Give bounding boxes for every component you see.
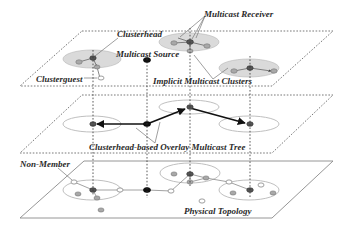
clusterguest-label: Clusterguest [36, 74, 83, 84]
layered-multicast-diagram: Clusterhead Multicast Receiver Multicast… [0, 0, 348, 232]
member-node [230, 191, 236, 195]
layer-implicit-clusters: Clusterhead Multicast Receiver Multicast… [20, 9, 333, 86]
clusterguest-node [98, 76, 104, 80]
bottom-plane [20, 161, 333, 218]
clusterguest-node [76, 60, 82, 64]
clusterguest-node [94, 65, 100, 69]
receiver-node [204, 44, 210, 48]
layer-physical-topology: Non-Member Physical Topology [19, 159, 333, 218]
non-member-node [226, 180, 232, 184]
member-node [94, 196, 100, 200]
clusterguest-node [231, 69, 237, 73]
member-node [171, 172, 177, 176]
member-node [203, 176, 209, 180]
layer-overlay-tree: Clusterhead-based Overlay Multicast Tree [20, 95, 333, 153]
clusterhead-label: Clusterhead [117, 29, 163, 39]
clusterguest-node [271, 69, 277, 73]
non-member-node [71, 180, 77, 184]
multicast-receiver-label: Multicast Receiver [203, 9, 274, 19]
physical-topology-label: Physical Topology [184, 206, 252, 216]
member-node [270, 191, 276, 195]
non-member-label: Non-Member [19, 159, 70, 169]
tree-pointer-1 [136, 128, 155, 143]
member-node [98, 208, 104, 212]
non-member-node [199, 199, 205, 203]
overlay-tree-label: Clusterhead-based Overlay Multicast Tree [89, 142, 245, 152]
receiver-node [171, 41, 177, 45]
non-member-node [117, 188, 123, 192]
member-node [75, 192, 81, 196]
implicit-clusters-label: Implicit Multicast Clusters [152, 76, 253, 86]
non-member-node [168, 189, 174, 193]
tree-edge-right [190, 108, 245, 123]
tree-pointer-2 [155, 122, 160, 143]
multicast-source-label: Multicast Source [115, 49, 179, 59]
non-member-node [258, 183, 264, 187]
